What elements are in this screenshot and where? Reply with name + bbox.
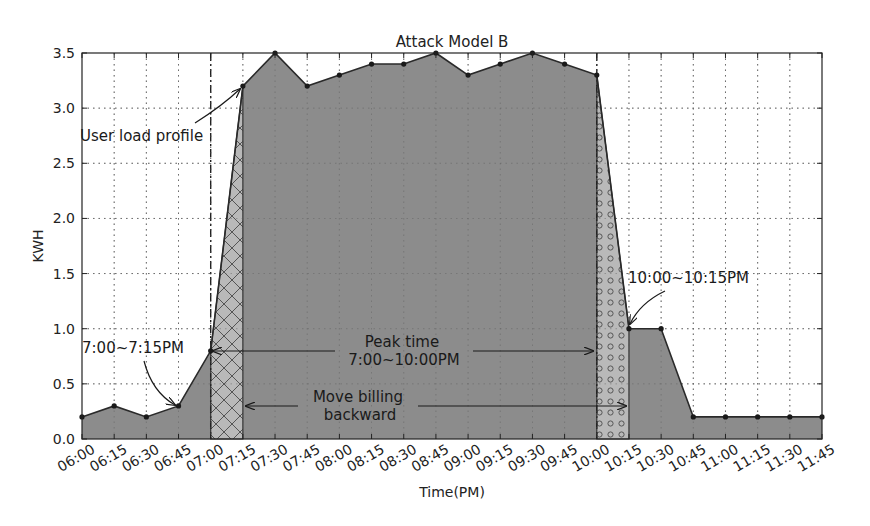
y-tick-label: 0.0: [53, 431, 75, 447]
data-point: [240, 83, 245, 88]
data-point: [562, 61, 567, 66]
y-tick-label: 2.0: [53, 210, 75, 226]
data-point: [176, 403, 181, 408]
data-point: [337, 72, 342, 77]
data-point: [594, 72, 599, 77]
data-point: [401, 61, 406, 66]
annotation-user-load-profile: User load profile: [80, 127, 203, 145]
y-tick-label: 2.5: [53, 155, 75, 171]
data-point: [755, 414, 760, 419]
data-point: [659, 326, 664, 331]
annotation-move-billing-line1: Move billing: [313, 388, 403, 406]
y-axis-title: KWH: [30, 229, 46, 262]
data-point: [208, 348, 213, 353]
annotation-10-00-10-15pm: 10:00~10:15PM: [628, 269, 749, 287]
annotation-move-billing-line2: backward: [324, 406, 397, 424]
data-point: [787, 414, 792, 419]
x-axis-title: Time(PM): [418, 484, 485, 500]
y-tick-label: 1.0: [53, 321, 75, 337]
data-point: [465, 72, 470, 77]
annotation-peak-time-line2: 7:00~10:00PM: [348, 351, 459, 369]
x-axis-tick-labels: 06:0006:1506:3006:4507:0007:1507:3007:45…: [55, 441, 838, 475]
data-point: [723, 414, 728, 419]
y-tick-label: 1.5: [53, 266, 75, 282]
plot-area: [79, 50, 824, 439]
data-point: [691, 414, 696, 419]
data-point: [112, 403, 117, 408]
x-tick-label: 11:45: [795, 441, 838, 475]
data-point: [144, 414, 149, 419]
data-point: [305, 83, 310, 88]
y-tick-label: 3.5: [53, 45, 75, 61]
annotation-7-00-7-15pm: 7:00~7:15PM: [82, 339, 184, 357]
data-point: [369, 61, 374, 66]
chart-title: Attack Model B: [396, 33, 509, 51]
annotation-peak-time-line1: Peak time: [365, 333, 439, 351]
y-axis-tick-labels: 0.00.51.01.52.02.53.03.5: [53, 45, 75, 447]
data-point: [626, 326, 631, 331]
y-tick-label: 3.0: [53, 100, 75, 116]
y-tick-label: 0.5: [53, 376, 75, 392]
data-point: [498, 61, 503, 66]
attack-model-b-chart: 0.00.51.01.52.02.53.03.5 06:0006:1506:30…: [0, 0, 870, 526]
